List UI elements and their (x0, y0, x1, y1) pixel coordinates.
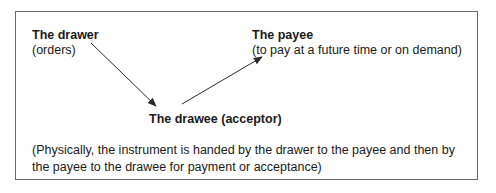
arrow-drawee-to-payee (182, 57, 262, 104)
arrow-drawer-to-drawee (91, 43, 156, 106)
arrows (0, 0, 496, 193)
